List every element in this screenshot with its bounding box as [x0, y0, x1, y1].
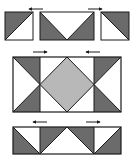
- bottom-triangle-strip: [13, 127, 121, 154]
- half-square-triangle-left: [5, 12, 33, 40]
- middle-row: [13, 52, 121, 112]
- quilt-assembly-diagram: [0, 0, 130, 161]
- bottom-row: [13, 122, 121, 154]
- half-square-triangle-right: [101, 12, 129, 40]
- flying-geese-inverted: [40, 12, 94, 40]
- center-square-in-square: [40, 57, 94, 112]
- top-row: [5, 9, 129, 40]
- right-hourglass-half: [94, 57, 121, 112]
- left-hourglass-half: [13, 57, 40, 112]
